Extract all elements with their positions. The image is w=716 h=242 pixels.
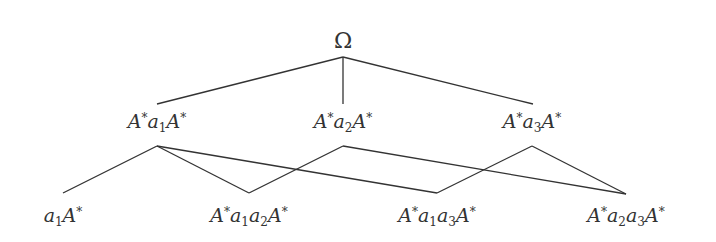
edge-4 bbox=[157, 146, 249, 193]
node-A-star-a1-a2-A-star: A*a1a2A* bbox=[210, 206, 287, 228]
node-A-star-a2-A-star: A*a2A* bbox=[314, 112, 372, 134]
node-A-star-a1-A-star: A*a1A* bbox=[128, 112, 186, 134]
omega-symbol: Ω bbox=[334, 28, 352, 53]
node-omega: Ω bbox=[334, 30, 352, 52]
node-A-star-a1-a3-A-star: A*a1a3A* bbox=[398, 206, 475, 228]
edge-9 bbox=[532, 146, 626, 194]
edge-0 bbox=[157, 57, 343, 104]
edge-8 bbox=[437, 146, 532, 193]
edge-2 bbox=[343, 57, 533, 104]
node-a1-A-star: a1A* bbox=[44, 206, 83, 228]
node-A-star-a3-A-star: A*a3A* bbox=[503, 112, 561, 134]
edge-6 bbox=[249, 146, 343, 193]
edge-3 bbox=[63, 146, 157, 193]
node-A-star-a2-a3-A-star: A*a2a3A* bbox=[587, 206, 664, 228]
